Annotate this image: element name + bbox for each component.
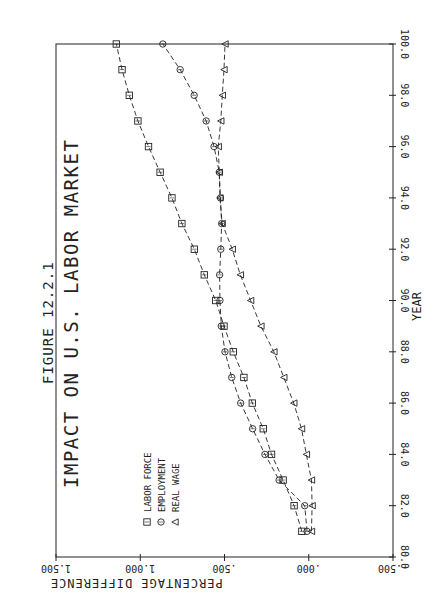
x-tick-label: 92.0 bbox=[399, 237, 410, 261]
y-axis-label: PERCENTAGE DIFFERENCE bbox=[50, 576, 223, 590]
x-tick-label: 100.0 bbox=[399, 29, 410, 59]
series-real-wage bbox=[215, 41, 315, 535]
x-tick-label: 82.0 bbox=[399, 494, 410, 518]
triangle-marker bbox=[172, 519, 178, 525]
legend: LABOR FORCEEMPLOYMENTREAL WAGE bbox=[143, 452, 181, 525]
legend-label: EMPLOYMENT bbox=[157, 457, 167, 512]
plot-border bbox=[56, 44, 393, 557]
legend-item: EMPLOYMENT bbox=[157, 457, 167, 525]
triangle-marker bbox=[237, 272, 243, 278]
y-tick-label: 1.500 bbox=[41, 563, 71, 574]
x-tick-label: 94.0 bbox=[399, 186, 410, 210]
x-tick-label: 84.0 bbox=[399, 442, 410, 466]
y-tick-label: 1.000 bbox=[125, 563, 155, 574]
plot-frame bbox=[56, 44, 393, 557]
chart-title: IMPACT ON U.S. LABOR MARKET bbox=[60, 139, 82, 488]
y-tick-label: .000 bbox=[297, 563, 321, 574]
x-tick-label: 86.0 bbox=[399, 391, 410, 415]
triangle-marker bbox=[258, 323, 264, 329]
triangle-marker bbox=[281, 374, 287, 380]
y-tick-label: .500 bbox=[212, 563, 236, 574]
series-employment bbox=[160, 41, 311, 535]
triangle-marker bbox=[298, 426, 304, 432]
legend-item: REAL WAGE bbox=[171, 463, 181, 525]
axis-ticks: 80.082.084.086.088.090.092.094.096.098.0… bbox=[41, 29, 410, 574]
x-tick-label: 96.0 bbox=[399, 135, 410, 159]
series-line bbox=[163, 44, 307, 531]
x-axis-label: YEAR bbox=[410, 292, 424, 321]
legend-label: REAL WAGE bbox=[171, 463, 181, 512]
y-tick-label: -.500 bbox=[378, 563, 408, 574]
legend-label: LABOR FORCE bbox=[143, 452, 153, 512]
x-tick-label: 98.0 bbox=[399, 83, 410, 107]
series-line bbox=[218, 44, 312, 531]
x-tick-label: 88.0 bbox=[399, 340, 410, 364]
x-tick-label: 90.0 bbox=[399, 288, 410, 312]
figure-number: FIGURE 12.2.1 bbox=[40, 261, 56, 384]
legend-item: LABOR FORCE bbox=[143, 452, 153, 525]
